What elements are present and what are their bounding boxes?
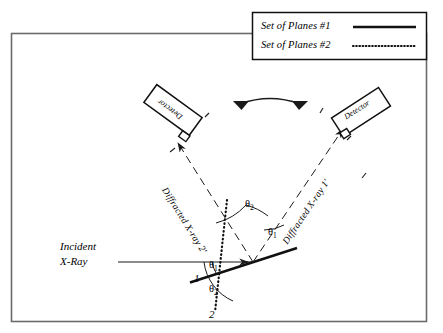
detector-sweep-arc xyxy=(240,99,300,105)
legend-label-1: Set of Planes #1 xyxy=(261,20,331,32)
sweep-arrowhead-right xyxy=(292,101,308,110)
plane-2-marker: 2 xyxy=(209,308,215,320)
sweep-path-dash-right-1 xyxy=(320,108,323,113)
angle-label-theta1-lower: θ1 xyxy=(209,259,218,273)
theta2-lower-sub: 2 xyxy=(214,288,218,297)
set-of-planes-1-line xyxy=(190,248,297,283)
theta1-lower-sub: 1 xyxy=(214,264,218,273)
legend-label-2: Set of Planes #2 xyxy=(261,39,331,51)
angle-arc-theta2-upper xyxy=(216,205,246,223)
incident-xray-label-line1: Incident xyxy=(60,239,96,254)
plane-1-marker: 1 xyxy=(194,272,200,284)
angle-label-theta1-upper: θ1 xyxy=(268,226,277,240)
angle-label-theta2-upper: θ2 xyxy=(245,198,254,212)
diffraction-figure: Set of Planes #1 Set of Planes #2 Incide… xyxy=(0,0,443,333)
theta2-upper-sub: 2 xyxy=(250,203,254,212)
incident-xray-label-line2: X-Ray xyxy=(60,254,87,269)
diagram-canvas xyxy=(0,0,443,333)
diffracted-xray-2-prime-line xyxy=(178,143,253,262)
diffracted-xray-1-prime-line xyxy=(253,129,343,262)
sweep-path-dash-left-1 xyxy=(205,113,209,117)
sweep-arrowhead-left xyxy=(233,101,249,110)
sweep-path-dash-left-2 xyxy=(170,148,175,152)
sweep-path-dash-right-3 xyxy=(362,173,366,178)
angle-label-theta2-lower: θ2 xyxy=(209,283,218,297)
theta1-upper-sub: 1 xyxy=(273,231,277,240)
